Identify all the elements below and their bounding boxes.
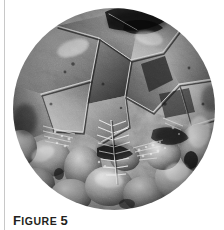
figure-caption: FIGURE5	[13, 212, 68, 228]
figure-block: FIGURE5	[0, 0, 224, 230]
figure-caption-lead: F	[13, 213, 21, 228]
figure-caption-number: 5	[60, 213, 67, 228]
figure-caption-word: IGURE	[21, 215, 57, 227]
micrograph-figure	[13, 8, 215, 210]
micrograph-image	[13, 8, 215, 210]
